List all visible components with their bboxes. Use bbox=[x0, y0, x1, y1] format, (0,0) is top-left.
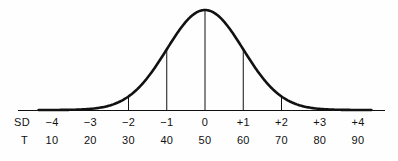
t-label-row: T 102030405060708090 bbox=[0, 132, 398, 148]
t-tick-label-3: 40 bbox=[160, 132, 173, 148]
t-tick-label-8: 90 bbox=[352, 132, 365, 148]
t-tick-label-2: 30 bbox=[122, 132, 135, 148]
sd-tick-label-5: +1 bbox=[237, 114, 250, 130]
sd-tick-label-0: −4 bbox=[45, 114, 58, 130]
sd-tick-label-7: +3 bbox=[313, 114, 326, 130]
sd-label-row: SD −4−3−2−10+1+2+3+4 bbox=[0, 114, 398, 130]
sd-tick-label-1: −3 bbox=[84, 114, 97, 130]
t-tick-label-6: 70 bbox=[275, 132, 288, 148]
sd-row-key: SD bbox=[14, 114, 30, 130]
sd-tick-label-3: −1 bbox=[160, 114, 173, 130]
sd-tick-label-8: +4 bbox=[351, 114, 364, 130]
sd-tick-label-2: −2 bbox=[122, 114, 135, 130]
t-tick-label-1: 20 bbox=[84, 132, 97, 148]
normal-curve-figure: SD −4−3−2−10+1+2+3+4 T 10203040506070809… bbox=[0, 0, 398, 161]
t-row-key: T bbox=[21, 132, 28, 148]
t-tick-label-7: 80 bbox=[313, 132, 326, 148]
ordinate-lines-group bbox=[52, 10, 358, 110]
t-tick-label-4: 50 bbox=[199, 132, 212, 148]
sd-tick-label-6: +2 bbox=[275, 114, 288, 130]
t-tick-label-0: 10 bbox=[46, 132, 59, 148]
sd-tick-label-4: 0 bbox=[202, 114, 208, 130]
t-tick-label-5: 60 bbox=[237, 132, 250, 148]
